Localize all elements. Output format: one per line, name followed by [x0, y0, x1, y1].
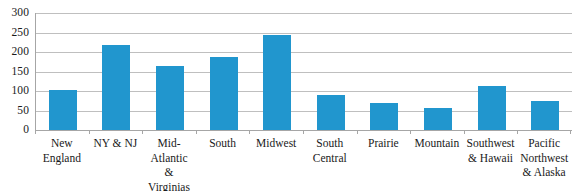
- x-tick-cell: [410, 130, 464, 134]
- x-axis-category-label: Southwest& Hawaii: [464, 136, 518, 165]
- bar-slot: [143, 13, 197, 130]
- plot-area: [35, 13, 572, 130]
- bar-slot: [304, 13, 358, 130]
- bar-slot: [250, 13, 304, 130]
- bar-slot: [358, 13, 412, 130]
- y-axis-tick-label: 50: [0, 105, 29, 117]
- bar-chart-figure: 300250200150100500 New EnglandNY & NJMid…: [0, 0, 581, 191]
- x-axis-tick-marks: [35, 130, 571, 134]
- x-tick-mark: [357, 130, 358, 134]
- bar[interactable]: [49, 90, 77, 130]
- y-axis-tick-label: 0: [0, 124, 29, 136]
- x-axis-category-label: NY & NJ: [89, 136, 143, 151]
- x-tick-mark: [249, 130, 250, 134]
- y-axis-tick-label: 200: [0, 46, 29, 58]
- x-tick-mark: [570, 130, 571, 134]
- x-axis-category-label: New England: [35, 136, 89, 165]
- bar[interactable]: [424, 108, 452, 130]
- bar[interactable]: [263, 35, 291, 130]
- bar[interactable]: [210, 57, 238, 130]
- x-axis-category-label: Mid-Atlantic& Virginias: [142, 136, 196, 191]
- bar-slot: [197, 13, 251, 130]
- x-tick-cell: [89, 130, 143, 134]
- y-axis-tick-label: 150: [0, 66, 29, 78]
- x-tick-cell: [249, 130, 303, 134]
- x-axis-category-label: PacificNorthwest& Alaska: [517, 136, 571, 180]
- x-tick-cell: [142, 130, 196, 134]
- bar-slot: [518, 13, 572, 130]
- x-tick-mark: [89, 130, 90, 134]
- bar[interactable]: [317, 95, 345, 130]
- bar[interactable]: [370, 103, 398, 130]
- x-tick-cell: [357, 130, 411, 134]
- x-tick-cell: [517, 130, 571, 134]
- x-tick-mark: [410, 130, 411, 134]
- bar[interactable]: [102, 45, 130, 130]
- x-tick-mark: [517, 130, 518, 134]
- x-tick-mark: [303, 130, 304, 134]
- bar-slot: [411, 13, 465, 130]
- x-tick-cell: [35, 130, 89, 134]
- bar-slot: [36, 13, 90, 130]
- y-axis-tick-label: 100: [0, 85, 29, 97]
- bar[interactable]: [156, 66, 184, 130]
- x-tick-mark: [464, 130, 465, 134]
- bar[interactable]: [478, 86, 506, 130]
- x-axis-category-label: Midwest: [249, 136, 303, 151]
- x-tick-cell: [464, 130, 518, 134]
- x-tick-mark: [196, 130, 197, 134]
- x-axis-category-label: Prairie: [357, 136, 411, 151]
- x-axis-category-label: Mountain: [410, 136, 464, 151]
- x-tick-cell: [196, 130, 250, 134]
- x-axis-category-labels: New EnglandNY & NJMid-Atlantic& Virginia…: [35, 136, 571, 191]
- y-axis-tick-labels: 300250200150100500: [0, 0, 33, 140]
- bar-series: [36, 13, 572, 130]
- x-tick-mark: [35, 130, 36, 134]
- y-axis-tick-label: 250: [0, 27, 29, 39]
- bar-slot: [465, 13, 519, 130]
- bar[interactable]: [531, 101, 559, 130]
- x-tick-mark: [142, 130, 143, 134]
- x-axis-category-label: SouthCentral: [303, 136, 357, 165]
- x-tick-cell: [303, 130, 357, 134]
- x-axis-category-label: South: [196, 136, 250, 151]
- y-axis-tick-label: 300: [0, 7, 29, 19]
- bar-slot: [90, 13, 144, 130]
